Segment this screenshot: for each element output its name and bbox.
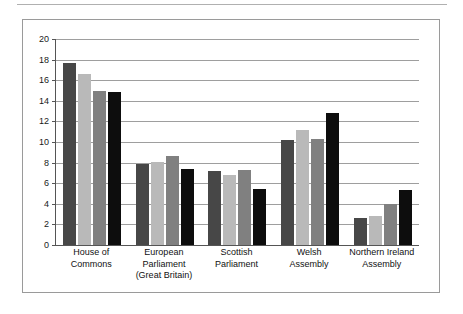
chart-figure-frame: 02468101214161820 House ofCommonsEuropea…	[22, 19, 440, 293]
chart-page: 02468101214161820 House ofCommonsEuropea…	[0, 0, 463, 314]
x-axis-label-line: Parliament	[128, 259, 201, 271]
y-axis-tick-label: 14	[39, 96, 49, 105]
bar-group	[201, 39, 274, 245]
bar	[151, 162, 164, 245]
y-axis-tick-label: 18	[39, 55, 49, 64]
bar	[136, 164, 149, 245]
bar	[63, 63, 76, 245]
bar	[296, 130, 309, 245]
x-axis-label-line: Scottish	[200, 247, 273, 259]
y-axis-tick	[52, 245, 56, 246]
y-axis-tick-label: 6	[44, 179, 49, 188]
x-axis-label: Northern IrelandAssembly	[345, 247, 418, 282]
plot-area: 02468101214161820	[55, 39, 419, 246]
bar	[166, 156, 179, 245]
bar	[384, 204, 397, 245]
bar	[281, 140, 294, 245]
y-axis-tick-label: 2	[44, 220, 49, 229]
bar	[181, 169, 194, 245]
y-axis-tick-label: 10	[39, 138, 49, 147]
bar	[399, 190, 412, 245]
top-horizontal-rule	[17, 4, 447, 5]
x-axis-label-line: House of	[55, 247, 128, 259]
x-axis-label-line: Assembly	[345, 259, 418, 271]
x-axis-label-line: European	[128, 247, 201, 259]
bar-groups	[56, 39, 419, 245]
plot-wrapper: 02468101214161820 House ofCommonsEuropea…	[23, 20, 441, 294]
bar	[208, 171, 221, 245]
x-axis-label: EuropeanParliament(Great Britain)	[128, 247, 201, 282]
x-axis-labels: House ofCommonsEuropeanParliament(Great …	[55, 247, 418, 282]
bar-group	[274, 39, 347, 245]
x-axis-label-line: Parliament	[200, 259, 273, 271]
bar	[93, 91, 106, 246]
x-axis-label: ScottishParliament	[200, 247, 273, 282]
bar	[238, 170, 251, 245]
bar	[369, 216, 382, 245]
y-axis-tick-label: 0	[44, 241, 49, 250]
x-axis-label: WelshAssembly	[273, 247, 346, 282]
y-axis-tick-label: 16	[39, 76, 49, 85]
bar-group	[129, 39, 202, 245]
bar	[311, 139, 324, 245]
x-axis-label-line: Commons	[55, 259, 128, 271]
y-axis-tick-label: 4	[44, 199, 49, 208]
y-axis-tick-label: 8	[44, 158, 49, 167]
x-axis-label-line: Welsh	[273, 247, 346, 259]
bar-group	[346, 39, 419, 245]
bar	[326, 113, 339, 245]
y-axis-tick-label: 20	[39, 35, 49, 44]
x-axis-label-line: Northern Ireland	[345, 247, 418, 259]
bar	[78, 74, 91, 245]
bar	[354, 218, 367, 245]
bar-group	[56, 39, 129, 245]
y-axis-tick-label: 12	[39, 117, 49, 126]
x-axis-label: House ofCommons	[55, 247, 128, 282]
bar	[253, 189, 266, 245]
x-axis-label-line: (Great Britain)	[128, 270, 201, 282]
bar	[108, 92, 121, 245]
x-axis-label-line: Assembly	[273, 259, 346, 271]
bar	[223, 175, 236, 245]
